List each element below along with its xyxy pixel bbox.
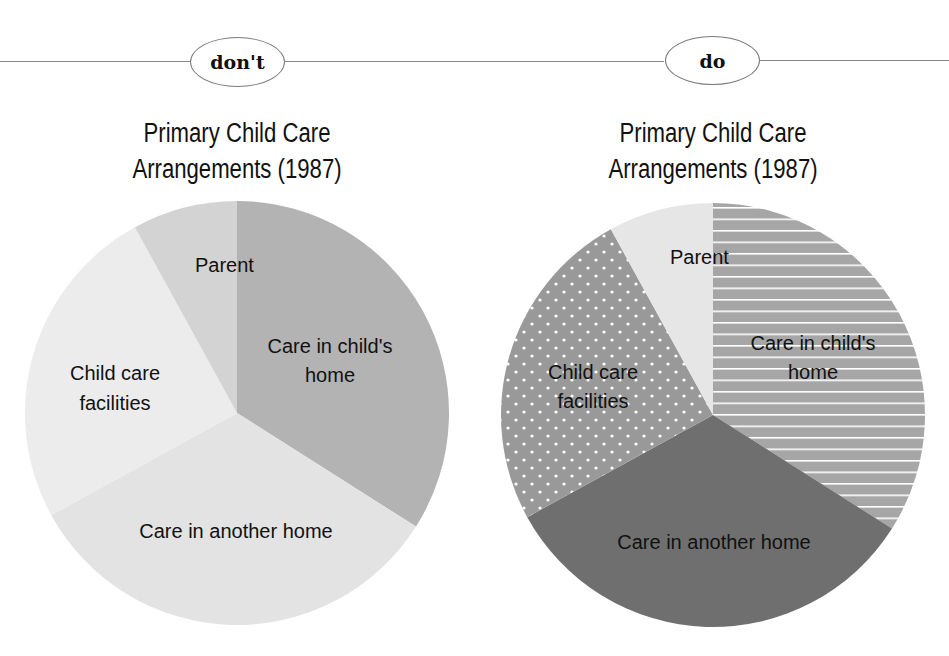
- do-pie: Parent Care in child's home Child care f…: [501, 203, 925, 627]
- dont-label-another-home: Care in another home: [139, 520, 332, 542]
- dont-label-child-home-1: Care in child's: [268, 335, 393, 357]
- dont-label-facilities-1: Child care: [70, 362, 160, 384]
- dont-pie: Parent Care in child's home Child care f…: [25, 201, 449, 625]
- do-label-facilities-1: Child care: [548, 361, 638, 383]
- do-label-parent: Parent: [670, 246, 729, 268]
- dont-label-child-home-2: home: [305, 364, 355, 386]
- do-label-child-home-2: home: [788, 361, 838, 383]
- dont-label-parent: Parent: [195, 254, 254, 276]
- dont-label-facilities-2: facilities: [79, 392, 150, 414]
- do-label-facilities-2: facilities: [557, 390, 628, 412]
- do-label-another-home: Care in another home: [617, 531, 810, 553]
- pie-charts: Parent Care in child's home Child care f…: [0, 0, 949, 656]
- do-label-child-home-1: Care in child's: [751, 332, 876, 354]
